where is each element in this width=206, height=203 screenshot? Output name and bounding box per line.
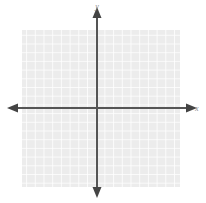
x-axis-label: x: [194, 104, 199, 113]
coordinate-grid-figure: y x: [0, 0, 206, 203]
x-axis-left-arrowhead: [7, 104, 18, 113]
coordinate-grid-svg: y x: [0, 0, 206, 203]
y-axis-label: y: [94, 2, 99, 11]
y-axis-bottom-arrowhead: [93, 187, 102, 198]
